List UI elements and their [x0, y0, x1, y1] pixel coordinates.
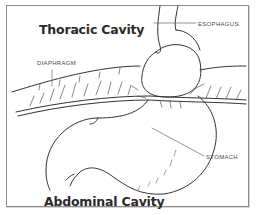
diaphragm-label: Diaphragm [37, 57, 76, 67]
stomach-leader-line [152, 128, 204, 156]
stomach-right-curve [70, 96, 216, 194]
stomach-left-curve [46, 100, 148, 190]
diaphragm-upper-right [200, 66, 246, 70]
stomach-label: Stomach [206, 151, 238, 161]
thoracic-cavity-title: Thoracic Cavity [39, 22, 144, 37]
abdominal-cavity-title: Abdominal Cavity [44, 194, 164, 209]
esophagus-label: Esophagus [198, 18, 239, 28]
esophagus-left-wall [156, 6, 161, 53]
esophagus-right-wall [175, 6, 178, 30]
diaphragm-upper-left [12, 66, 140, 92]
